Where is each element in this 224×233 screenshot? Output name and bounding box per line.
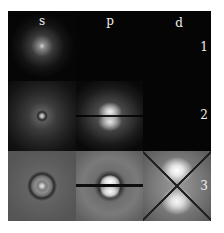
column-label-d: d <box>175 17 183 29</box>
row-label-2: 2 <box>200 109 208 121</box>
row-label-3: 3 <box>200 180 208 192</box>
column-label-s: s <box>39 15 45 27</box>
column-label-p: p <box>106 15 114 27</box>
cell-2s-orbital <box>8 81 76 151</box>
row-label-1: 1 <box>200 41 208 53</box>
cell-3s-orbital <box>8 151 76 221</box>
orbital-grid-figure <box>8 11 211 221</box>
cell-3p-orbital <box>76 151 144 221</box>
cell-2p-orbital <box>76 81 144 151</box>
